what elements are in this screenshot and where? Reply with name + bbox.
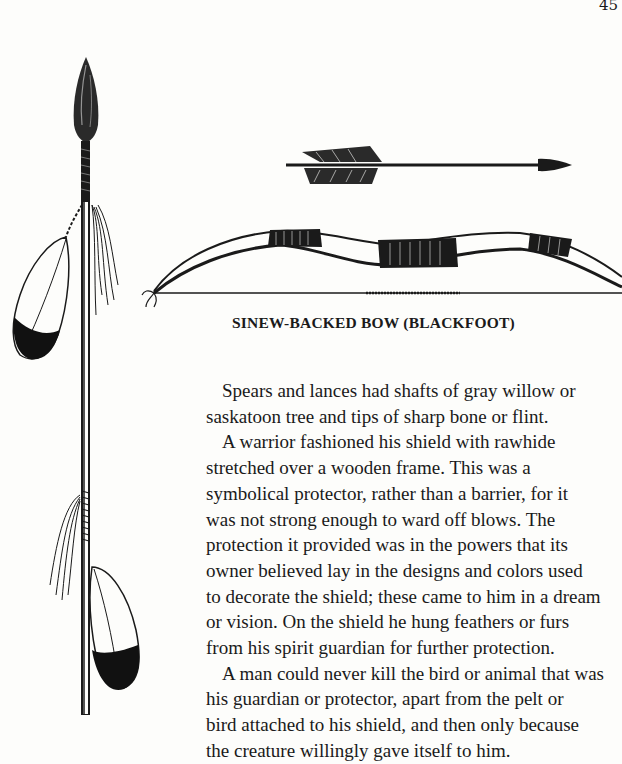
sinew-backed-bow-icon	[140, 205, 622, 315]
paragraph: Spears and lances had shafts of gray wil…	[206, 378, 622, 429]
body-text: Spears and lances had shafts of gray wil…	[206, 378, 622, 764]
arrow-icon	[280, 140, 580, 200]
paragraph: A man could never kill the bird or anima…	[206, 661, 622, 764]
figure-caption: SINEW-BACKED BOW (BLACKFOOT)	[232, 314, 515, 332]
feathered-lance-icon	[0, 55, 140, 715]
paragraph: A warrior fashioned his shield with rawh…	[206, 429, 622, 660]
page-number: 45	[599, 0, 618, 14]
